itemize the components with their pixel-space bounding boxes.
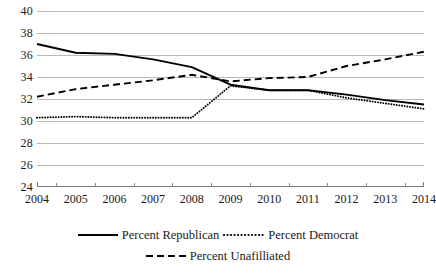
y-axis-labels: 242628303234363840 [0,11,33,187]
legend-swatch-dotted [223,229,265,241]
series-line-percent-republican [37,44,424,105]
legend-row: Percent Unafilliated [0,245,435,266]
legend-row: Percent RepublicanPercent Democrat [0,224,435,245]
x-tick-label: 2010 [257,192,281,206]
y-tick-label: 26 [3,159,33,171]
x-tick-label: 2005 [64,192,88,206]
axis-end-cap [37,182,38,187]
y-tick-label: 38 [3,27,33,39]
x-tick-label: 2009 [219,192,243,206]
legend-item-percent-republican[interactable]: Percent Republican [77,228,220,242]
x-tick-label: 2011 [296,192,320,206]
y-tick-label: 30 [3,115,33,127]
y-tick-label: 28 [3,137,33,149]
y-tick-label: 32 [3,93,33,105]
legend-swatch-dashed [145,250,187,262]
plot-area [37,11,424,187]
legend-swatch-solid [77,229,119,241]
series-line-percent-democrat [37,86,424,118]
x-tick-label: 2007 [141,192,165,206]
series-lines [37,11,424,187]
legend-item-percent-democrat[interactable]: Percent Democrat [223,228,358,242]
legend-label: Percent Unafilliated [190,249,290,263]
chart-legend: Percent RepublicanPercent DemocratPercen… [0,224,435,266]
x-axis-labels: 2004200520062007200820092010201120122013… [37,192,424,210]
x-tick-label: 2013 [373,192,397,206]
x-tick-label: 2014 [412,192,436,206]
y-tick-label: 40 [3,5,33,17]
x-tick-label: 2012 [335,192,359,206]
legend-label: Percent Democrat [268,228,358,242]
y-tick-label: 36 [3,49,33,61]
series-line-percent-unafilliated [37,52,424,97]
x-tick-label: 2006 [102,192,126,206]
legend-item-percent-unafilliated[interactable]: Percent Unafilliated [145,249,290,263]
axis-end-cap [423,182,424,187]
legend-label: Percent Republican [122,228,220,242]
y-tick-label: 34 [3,71,33,83]
x-tick-label: 2004 [25,192,49,206]
x-tick-label: 2008 [180,192,204,206]
